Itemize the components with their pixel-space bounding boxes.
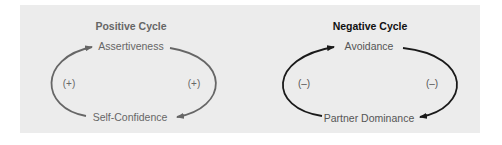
avoidance-node: Avoidance xyxy=(345,40,394,52)
positive-left-sign: (+) xyxy=(63,78,76,89)
negative-right-sign: (–) xyxy=(426,78,438,89)
negative-cycle-title: Negative Cycle xyxy=(333,20,408,32)
cycle-arrows xyxy=(0,0,502,145)
positive-cycle-title: Positive Cycle xyxy=(95,20,166,32)
partner-dominance-node: Partner Dominance xyxy=(324,112,414,124)
negative-left-sign: (–) xyxy=(298,78,310,89)
positive-right-sign: (+) xyxy=(188,78,201,89)
self-confidence-node: Self-Confidence xyxy=(93,111,168,123)
assertiveness-node: Assertiveness xyxy=(98,40,163,52)
